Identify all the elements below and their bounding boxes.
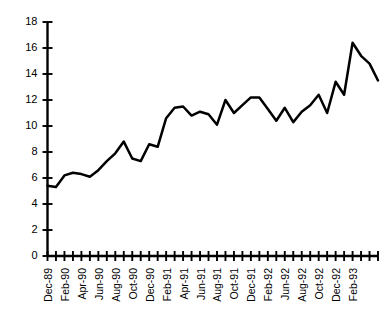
x-axis-tick-label: Apr-90 bbox=[76, 268, 88, 300]
x-axis-tick-label: Aug-91 bbox=[211, 268, 223, 302]
x-axis-tick-label: Feb-90 bbox=[59, 268, 71, 301]
x-axis-tick-label: Oct-92 bbox=[313, 268, 325, 300]
data-series-line bbox=[48, 43, 379, 187]
x-axis-tick-label: Jun-91 bbox=[195, 268, 207, 300]
x-axis-tick-label: Feb-91 bbox=[161, 268, 173, 301]
x-axis-tick-label: Oct-91 bbox=[228, 268, 240, 300]
y-axis-tick-label: 18 bbox=[25, 15, 37, 27]
x-axis-tick-label: Dec-92 bbox=[330, 268, 342, 302]
x-axis-tick-label: Apr-91 bbox=[178, 268, 190, 300]
y-axis-tick-label: 6 bbox=[31, 171, 37, 183]
y-axis-tick-label: 16 bbox=[25, 41, 37, 53]
x-axis-tick-label: Feb-93 bbox=[347, 268, 359, 301]
y-axis-tick-label: 10 bbox=[25, 119, 37, 131]
x-axis-tick-label: Feb-92 bbox=[262, 268, 274, 301]
x-axis-tick-label: Dec-91 bbox=[245, 268, 257, 302]
line-chart: 024681012141618Dec-89Feb-90Apr-90Jun-90A… bbox=[0, 0, 390, 319]
x-axis-tick-label: Dec-89 bbox=[42, 268, 54, 302]
x-axis-tick-label: Oct-90 bbox=[127, 268, 139, 300]
x-axis-tick-label: Aug-90 bbox=[110, 268, 122, 302]
y-axis-tick-label: 4 bbox=[31, 197, 37, 209]
y-axis-tick-label: 0 bbox=[31, 249, 37, 261]
y-axis-tick-label: 12 bbox=[25, 93, 37, 105]
y-axis-tick-label: 8 bbox=[31, 145, 37, 157]
x-axis-tick-label: Aug-92 bbox=[296, 268, 308, 302]
y-axis-tick-label: 14 bbox=[25, 67, 37, 79]
x-axis-tick-label: Jun-90 bbox=[93, 268, 105, 300]
x-axis-tick-label: Dec-90 bbox=[144, 268, 156, 302]
chart-container: 024681012141618Dec-89Feb-90Apr-90Jun-90A… bbox=[0, 0, 390, 319]
y-axis-tick-label: 2 bbox=[31, 223, 37, 235]
x-axis-tick-label: Jun-92 bbox=[279, 268, 291, 300]
